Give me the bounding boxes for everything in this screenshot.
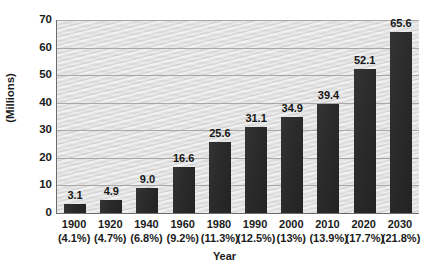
x-axis-tick-label: 1990(12.5%)	[237, 217, 273, 245]
bar	[173, 167, 195, 213]
x-axis-tick-percent: (11.3%)	[201, 231, 237, 245]
bar-value-label: 39.4	[318, 90, 339, 101]
x-axis-tick-label: 2020(17.7%)	[346, 217, 382, 245]
x-axis-tick-year: 1920	[92, 217, 128, 231]
x-axis-tick-percent: (13.9%)	[309, 231, 345, 245]
x-axis-tick-year: 2000	[273, 217, 309, 231]
bar-slot: 3.1	[57, 20, 93, 213]
y-axis-tick-label: 40	[26, 97, 52, 109]
x-axis-tick-percent: (6.8%)	[128, 231, 164, 245]
x-axis-tick-percent: (4.7%)	[92, 231, 128, 245]
x-axis-tick-year: 2030	[382, 217, 418, 231]
y-axis-tick-label: 70	[26, 14, 52, 26]
x-axis-tick-percent: (12.5%)	[237, 231, 273, 245]
x-axis-tick-label: 2030(21.8%)	[382, 217, 418, 245]
bar-value-label: 25.6	[209, 128, 230, 139]
x-axis-tick-label: 1920(4.7%)	[92, 217, 128, 245]
bar	[64, 204, 86, 213]
x-axis-tick-percent: (4.1%)	[56, 231, 92, 245]
x-axis-tick-label: 1940(6.8%)	[128, 217, 164, 245]
x-axis-tick-year: 1980	[201, 217, 237, 231]
x-axis-tick-label: 1980(11.3%)	[201, 217, 237, 245]
y-axis-tick-label: 10	[26, 180, 52, 192]
x-axis-tick-label: 2010(13.9%)	[309, 217, 345, 245]
bars-layer: 3.14.99.016.625.631.134.939.452.165.6	[57, 20, 419, 213]
bar	[317, 104, 339, 213]
y-axis-tick-label: 30	[26, 125, 52, 137]
bar-slot: 4.9	[93, 20, 129, 213]
x-axis-tick-year: 1960	[165, 217, 201, 231]
x-axis-tick-label: 1900(4.1%)	[56, 217, 92, 245]
bar	[245, 127, 267, 213]
y-axis-tick-label: 50	[26, 69, 52, 81]
x-axis-tick-year: 2020	[346, 217, 382, 231]
y-axis-tick-labels: 010203040506070	[26, 13, 52, 213]
y-axis-tick-label: 60	[26, 42, 52, 54]
x-axis-tick-percent: (17.7%)	[346, 231, 382, 245]
bar	[390, 32, 412, 213]
x-axis-tick-percent: (13%)	[273, 231, 309, 245]
plot-area: 3.14.99.016.625.631.134.939.452.165.6	[56, 20, 419, 214]
bar-slot: 9.0	[129, 20, 165, 213]
bar-value-label: 52.1	[354, 55, 375, 66]
bar	[281, 117, 303, 213]
x-axis-tick-labels: 1900(4.1%)1920(4.7%)1940(6.8%)1960(9.2%)…	[56, 217, 418, 251]
bar-value-label: 34.9	[282, 103, 303, 114]
bar-slot: 39.4	[310, 20, 346, 213]
y-axis-title: (Millions)	[4, 66, 16, 130]
bar-chart-figure: (Millions) 010203040506070 3.14.99.016.6…	[0, 0, 435, 270]
bar-value-label: 9.0	[140, 174, 155, 185]
x-axis-tick-year: 1940	[128, 217, 164, 231]
bar	[100, 200, 122, 214]
x-axis-title-text: Year	[213, 250, 236, 262]
x-axis-tick-label: 2000(13%)	[273, 217, 309, 245]
bar-value-label: 3.1	[67, 190, 82, 201]
bar-slot: 34.9	[274, 20, 310, 213]
bar-slot: 31.1	[238, 20, 274, 213]
bar	[354, 69, 376, 213]
y-axis-tick-label: 0	[26, 207, 52, 219]
x-axis-tick-percent: (9.2%)	[165, 231, 201, 245]
bar-slot: 25.6	[202, 20, 238, 213]
bar-value-label: 4.9	[104, 186, 119, 197]
bar-value-label: 16.6	[173, 153, 194, 164]
bar-slot: 52.1	[347, 20, 383, 213]
bar	[136, 188, 158, 213]
y-axis-tick-label: 20	[26, 152, 52, 164]
bar-slot: 65.6	[383, 20, 419, 213]
bar-value-label: 65.6	[390, 18, 411, 29]
x-axis-tick-year: 2010	[309, 217, 345, 231]
x-axis-tick-percent: (21.8%)	[382, 231, 418, 245]
bar-slot: 16.6	[166, 20, 202, 213]
x-axis-title: Year	[0, 250, 435, 262]
x-axis-tick-year: 1900	[56, 217, 92, 231]
x-axis-tick-year: 1990	[237, 217, 273, 231]
x-axis-tick-label: 1960(9.2%)	[165, 217, 201, 245]
bar-value-label: 31.1	[245, 113, 266, 124]
bar	[209, 142, 231, 213]
